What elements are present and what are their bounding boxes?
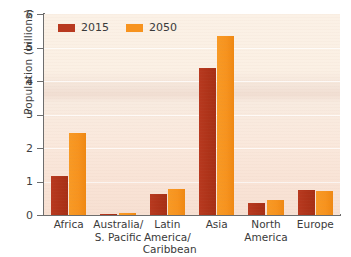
x-axis-label-africa: Africa (44, 218, 93, 231)
y-tick-mark (37, 182, 43, 183)
y-tick-label: 5 (11, 42, 33, 53)
bar-2050-africa[interactable] (69, 133, 86, 215)
y-tick-label: 1 (11, 176, 33, 187)
x-axis-label-asia: Asia (192, 218, 241, 231)
gridline (44, 148, 340, 149)
y-tick-mark (37, 81, 43, 82)
legend-item-2050[interactable]: 2050 (126, 22, 177, 33)
y-tick-label: 3 (11, 109, 33, 120)
bar-2015-latinamericacaribbean[interactable] (150, 194, 167, 215)
y-tick-mark (37, 115, 43, 116)
gridline (44, 48, 340, 49)
y-tick-mark (37, 215, 43, 216)
bar-2050-europe[interactable] (316, 191, 333, 215)
y-tick-label: 0 (11, 210, 33, 221)
x-axis-label-latinamericacaribbean: Latin America/ Caribbean (143, 218, 192, 256)
bar-2050-australiaspacific[interactable] (119, 213, 136, 215)
bar-2015-europe[interactable] (298, 190, 315, 215)
bar-2015-australiaspacific[interactable] (100, 214, 117, 215)
legend-swatch-2015-icon (58, 24, 75, 32)
chart-legend: 2015 2050 (58, 22, 177, 33)
y-tick-label: 4 (11, 76, 33, 87)
gridline (44, 115, 340, 116)
bar-2050-asia[interactable] (217, 36, 234, 215)
y-tick-mark (37, 48, 43, 49)
y-tick-mark (37, 148, 43, 149)
legend-label-2050: 2050 (149, 22, 177, 33)
bar-2015-asia[interactable] (199, 68, 216, 215)
bar-2050-northamerica[interactable] (267, 200, 284, 215)
population-bar-chart: Population (billions) 0123456 AfricaAust… (0, 0, 351, 257)
bar-2050-latinamericacaribbean[interactable] (168, 189, 185, 215)
y-tick-mark (37, 14, 43, 15)
y-tick-label: 6 (11, 9, 33, 20)
plot-area (44, 14, 340, 215)
x-axis-label-europe: Europe (291, 218, 340, 231)
legend-swatch-2050-icon (126, 24, 143, 32)
legend-item-2015[interactable]: 2015 (58, 22, 109, 33)
gridline (44, 81, 340, 82)
legend-label-2015: 2015 (81, 22, 109, 33)
y-tick-label: 2 (11, 143, 33, 154)
gridline (44, 182, 340, 183)
bar-2015-africa[interactable] (51, 176, 68, 215)
x-axis-label-australiaspacific: Australia/ S. Pacific (93, 218, 142, 243)
x-axis-label-northamerica: North America (241, 218, 290, 243)
bar-2015-northamerica[interactable] (248, 203, 265, 215)
